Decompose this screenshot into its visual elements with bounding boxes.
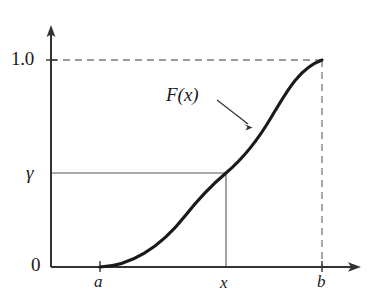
y-axis-label-gamma: γ (26, 163, 34, 182)
cdf-curve (100, 60, 322, 267)
x-axis-label-a: a (94, 273, 103, 290)
cdf-plot-canvas (0, 0, 374, 300)
x-axis-label-b: b (317, 273, 326, 290)
y-axis-label-one: 1.0 (11, 49, 34, 68)
y-axis-label-zero: 0 (31, 255, 41, 274)
annotation-arrow-icon (244, 124, 252, 131)
annotation-leader-line (217, 100, 248, 124)
curve-label-f-of-x: F(x) (166, 85, 199, 104)
x-axis-label-x: x (220, 274, 228, 291)
cdf-figure: 1.0 γ 0 a x b F(x) (0, 0, 374, 300)
